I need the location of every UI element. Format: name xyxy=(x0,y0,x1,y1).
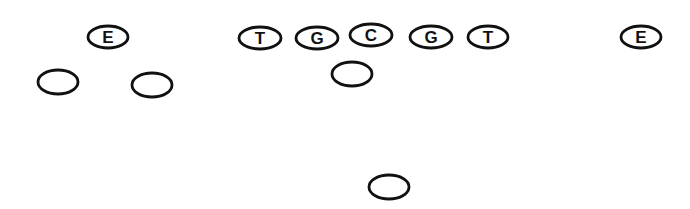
player-left-tackle: T xyxy=(239,27,281,49)
player-oval xyxy=(369,175,409,199)
player-label: G xyxy=(424,28,437,47)
player-right-end: E xyxy=(621,26,661,48)
player-left-wingback xyxy=(38,70,78,94)
formation-diagram: E T G C G T E xyxy=(0,0,690,209)
player-label: E xyxy=(102,28,113,47)
player-center: C xyxy=(350,24,392,46)
player-label: G xyxy=(310,29,323,48)
player-oval xyxy=(132,73,172,97)
player-right-tackle: T xyxy=(468,26,508,48)
player-oval xyxy=(38,70,78,94)
player-label: T xyxy=(255,29,266,48)
player-oval xyxy=(332,62,372,86)
player-left-slotback xyxy=(132,73,172,97)
player-label: T xyxy=(483,28,494,47)
player-label: C xyxy=(365,26,377,45)
player-quarterback xyxy=(332,62,372,86)
player-left-guard: G xyxy=(296,27,338,49)
player-label: E xyxy=(635,28,646,47)
player-left-end: E xyxy=(88,26,128,48)
player-deep-back xyxy=(369,175,409,199)
player-right-guard: G xyxy=(410,26,452,48)
